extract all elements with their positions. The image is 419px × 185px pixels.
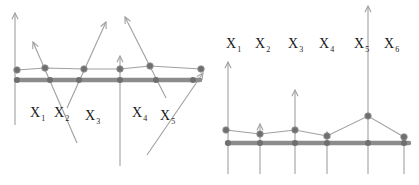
variable-subscript: 3: [96, 117, 100, 126]
variable-subscript: 4: [330, 45, 334, 54]
left-panel: X1X2X3X4X5: [12, 13, 204, 166]
baseline-node-dot: [117, 77, 123, 83]
variable-subscript: 1: [41, 114, 45, 123]
variable-subscript: 3: [299, 45, 303, 54]
variable-label: X5: [160, 108, 175, 126]
baseline-node-dot: [257, 140, 263, 146]
variable-subscript: 2: [65, 114, 69, 123]
force-arrow: [67, 22, 106, 108]
node-dot: [81, 66, 88, 73]
variable-label: X2: [255, 36, 270, 54]
baseline-node-dot: [76, 77, 82, 83]
force-arrow: [33, 42, 77, 143]
node-dot: [117, 66, 124, 73]
variable-label: X6: [384, 36, 399, 54]
node-dot: [42, 65, 49, 72]
variable-subscript: 4: [143, 114, 147, 123]
node-dot: [292, 127, 299, 134]
node-dot: [257, 131, 264, 138]
variable-label: X3: [288, 36, 303, 54]
node-dot: [401, 134, 408, 141]
force-arrow: [125, 17, 166, 98]
top-polyline: [226, 116, 404, 137]
variable-subscript: 6: [395, 45, 399, 54]
baseline-node-dot: [365, 140, 371, 146]
node-dot: [223, 127, 230, 134]
baseline-node-dot: [47, 77, 53, 83]
node-dot: [14, 67, 21, 74]
variable-subscript: 1: [237, 45, 241, 54]
variable-label: X1: [30, 105, 45, 123]
baseline-node-dot: [324, 140, 330, 146]
baseline-node-dot: [153, 77, 159, 83]
baseline-node-dot: [292, 140, 298, 146]
baseline-node-dot: [401, 140, 407, 146]
vector-diagram: X1X2X3X4X5 X1X2X3X4X5X6: [0, 0, 419, 185]
baseline-node-dot: [225, 140, 231, 146]
variable-label: X5: [354, 36, 369, 54]
node-dot: [324, 133, 331, 140]
variable-subscript: 2: [266, 45, 270, 54]
right-panel: X1X2X3X4X5X6: [223, 6, 409, 174]
node-dot: [365, 113, 372, 120]
node-dot: [147, 63, 154, 70]
baseline-node-dot: [14, 77, 20, 83]
force-arrow: [147, 73, 203, 155]
baseline-node-dot: [190, 77, 196, 83]
variable-label: X1: [226, 36, 241, 54]
variable-label: X4: [132, 105, 147, 123]
variable-subscript: 5: [171, 117, 175, 126]
node-dot: [198, 66, 205, 73]
variable-label: X3: [85, 108, 100, 126]
variable-label: X4: [319, 36, 334, 54]
variable-subscript: 5: [365, 45, 369, 54]
